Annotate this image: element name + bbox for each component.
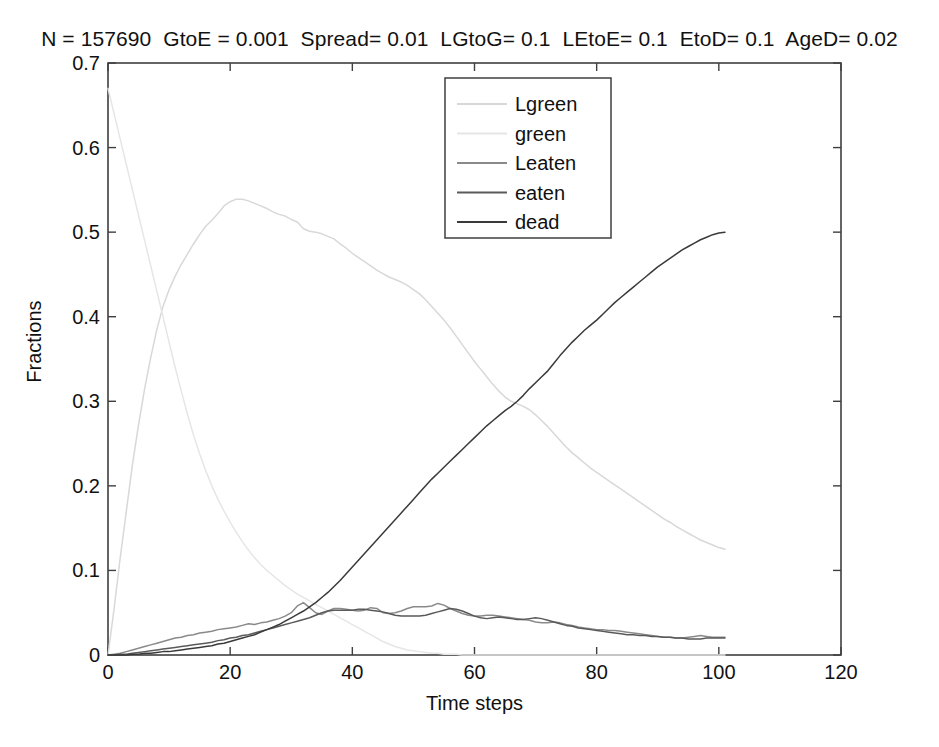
series-line-green <box>108 88 725 655</box>
x-tick-label: 60 <box>440 661 510 684</box>
x-axis-label: Time steps <box>108 692 841 715</box>
y-tick-label: 0.1 <box>52 559 100 582</box>
figure-container: N = 157690 GtoE = 0.001 Spread= 0.01 LGt… <box>0 0 939 747</box>
x-tick-label: 40 <box>317 661 387 684</box>
x-tick-label: 80 <box>562 661 632 684</box>
x-tick-label: 20 <box>195 661 265 684</box>
y-axis-label: Fractions <box>23 262 46 422</box>
figure-title: N = 157690 GtoE = 0.001 Spread= 0.01 LGt… <box>0 27 939 51</box>
series-line-dead <box>108 232 725 655</box>
legend-label-lgreen: Lgreen <box>515 93 577 115</box>
y-tick-label: 0.3 <box>52 390 100 413</box>
y-tick-label: 0.6 <box>52 136 100 159</box>
x-tick-label: 120 <box>806 661 876 684</box>
series-line-lgreen <box>108 199 725 655</box>
plot-canvas: LgreengreenLeateneatendead <box>0 0 939 747</box>
y-tick-label: 0.2 <box>52 474 100 497</box>
legend-label-green: green <box>515 123 566 145</box>
series-line-eaten <box>108 608 725 655</box>
x-tick-label: 0 <box>73 661 143 684</box>
y-tick-label: 0.5 <box>52 221 100 244</box>
legend-label-dead: dead <box>515 211 560 233</box>
y-tick-label: 0.4 <box>52 305 100 328</box>
y-tick-label-group: 00.10.20.30.40.50.60.7 <box>52 0 100 747</box>
legend-label-leaten: Leaten <box>515 152 576 174</box>
y-tick-label: 0.7 <box>52 52 100 75</box>
x-tick-label: 100 <box>684 661 754 684</box>
legend-label-eaten: eaten <box>515 182 565 204</box>
